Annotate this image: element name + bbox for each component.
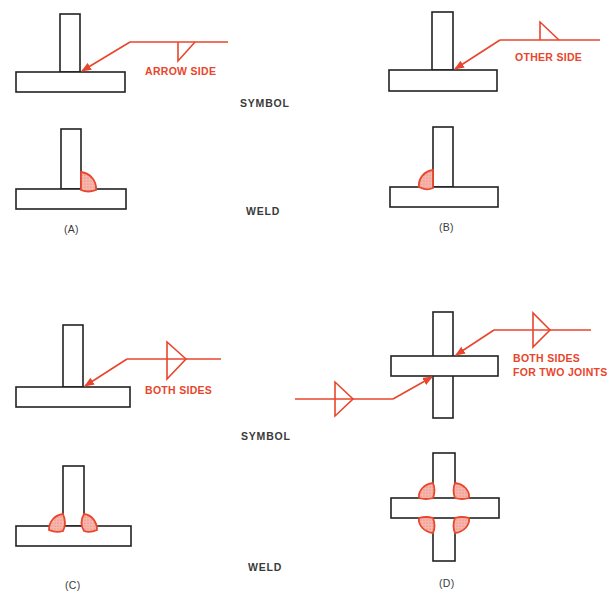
fillet-weld-icon <box>49 514 65 532</box>
fillet-weld-icon <box>419 517 435 533</box>
both-sides-label-line2: FOR TWO JOINTS <box>513 366 608 378</box>
fillet-weld-icon <box>454 483 470 499</box>
row-label-symbol: SYMBOL <box>241 430 291 442</box>
both-sides-fillet-symbol-icon <box>85 342 221 386</box>
panel-b-weld <box>390 127 498 207</box>
panel-a-weld <box>16 129 126 209</box>
fillet-weld-icon <box>81 172 96 192</box>
fillet-weld-icon <box>454 517 470 533</box>
row-label-weld: WELD <box>246 205 280 217</box>
panel-a-symbol <box>16 14 228 92</box>
caption-c: (C) <box>65 579 80 591</box>
panel-d-weld <box>391 453 499 561</box>
fillet-weld-icon <box>419 483 435 499</box>
caption-a: (A) <box>64 223 79 235</box>
cross-joint <box>391 312 498 418</box>
caption-b: (B) <box>439 221 454 233</box>
panel-c-weld <box>16 466 131 546</box>
row-label-symbol: SYMBOL <box>240 97 290 109</box>
panel-d-symbol <box>295 312 591 418</box>
arrow-side-label: ARROW SIDE <box>145 65 216 77</box>
other-side-label: OTHER SIDE <box>515 51 582 63</box>
tee-joint <box>16 14 125 92</box>
row-label-weld: WELD <box>248 561 282 573</box>
both-sides-label-line1: BOTH SIDES <box>513 352 580 364</box>
weld-symbol-diagram <box>0 0 613 602</box>
tee-joint <box>16 325 130 407</box>
fillet-weld-icon <box>82 514 98 532</box>
both-sides-label: BOTH SIDES <box>145 384 212 396</box>
caption-d: (D) <box>439 577 454 589</box>
fillet-weld-icon <box>419 170 433 189</box>
